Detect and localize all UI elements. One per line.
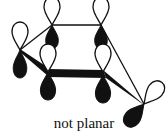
bond-c4-c5 bbox=[48, 69, 106, 78]
front-bonds bbox=[20, 49, 144, 105]
white-lobe-icon bbox=[44, 0, 60, 25]
diagram-caption: not planar bbox=[0, 114, 168, 132]
white-lobe-icon bbox=[95, 44, 111, 72]
white-lobe-icon bbox=[93, 0, 109, 25]
